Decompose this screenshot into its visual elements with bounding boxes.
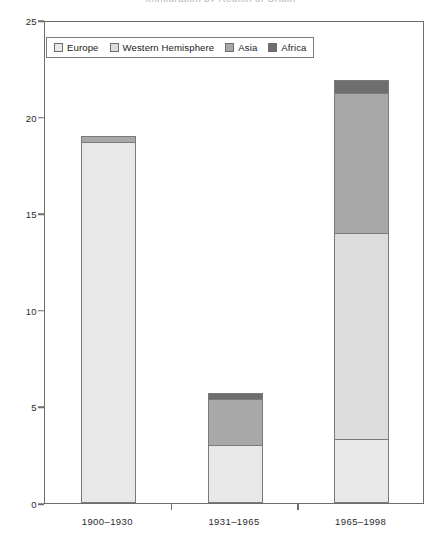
legend-label: Europe	[67, 43, 99, 53]
bar-segment[interactable]	[208, 393, 263, 399]
bar-segment[interactable]	[334, 439, 389, 503]
legend-swatch-icon	[110, 43, 119, 52]
legend-swatch-icon	[268, 43, 277, 52]
legend-item[interactable]: Western Hemisphere	[110, 43, 215, 53]
plot-inner	[45, 22, 423, 503]
x-axis-label: 1900–1930	[82, 516, 133, 527]
legend-swatch-icon	[225, 43, 234, 52]
bar-segment[interactable]	[334, 80, 389, 94]
bar-segment[interactable]	[81, 142, 136, 503]
bar-segment[interactable]	[208, 445, 263, 503]
bar-group[interactable]	[334, 20, 389, 503]
bar-group[interactable]	[208, 20, 263, 503]
bar-segment[interactable]	[208, 399, 263, 445]
chart-title: Immigration by Region of Origin	[0, 0, 441, 2]
bar-segment[interactable]	[334, 93, 389, 232]
x-axis-tick	[171, 504, 173, 510]
plot-area	[44, 21, 424, 504]
chart-legend: EuropeWestern HemisphereAsiaAfrica	[46, 37, 314, 58]
x-axis-label: 1931–1965	[208, 516, 259, 527]
bar-segment[interactable]	[334, 233, 389, 440]
legend-item[interactable]: Africa	[268, 43, 306, 53]
x-axis-tick	[297, 504, 299, 510]
legend-swatch-icon	[54, 43, 63, 52]
stacked-bar-chart: Immigration by Region of Origin 05101520…	[0, 0, 441, 541]
bar-group[interactable]	[81, 20, 136, 503]
x-axis-label: 1965–1998	[335, 516, 386, 527]
legend-label: Asia	[238, 43, 257, 53]
legend-label: Africa	[281, 43, 306, 53]
legend-label: Western Hemisphere	[123, 43, 215, 53]
bar-segment[interactable]	[81, 136, 136, 142]
legend-item[interactable]: Asia	[225, 43, 257, 53]
legend-item[interactable]: Europe	[54, 43, 99, 53]
